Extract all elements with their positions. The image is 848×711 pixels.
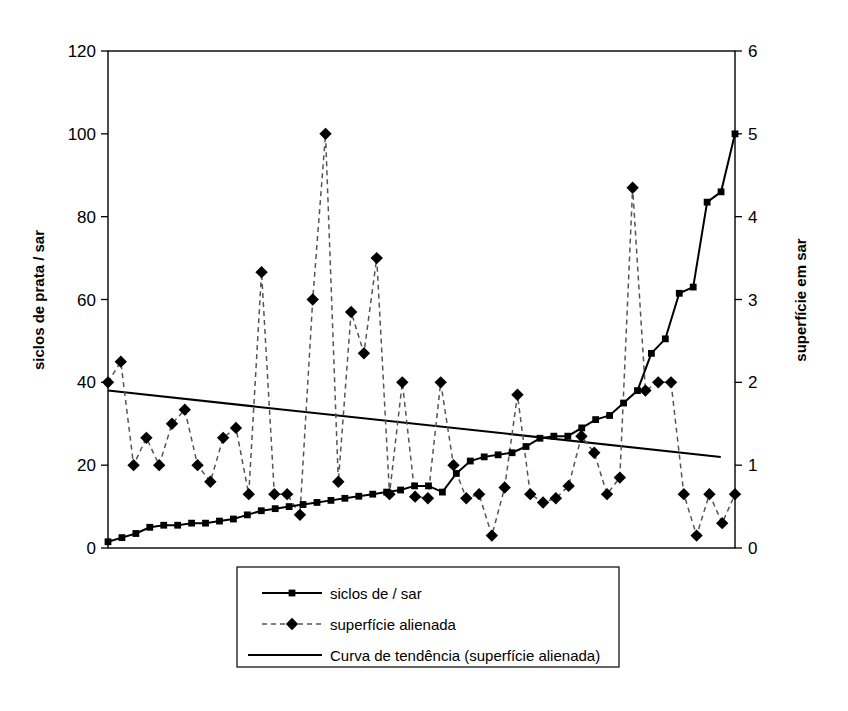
right-tick-label: 2 xyxy=(748,373,757,392)
right-tick-label: 3 xyxy=(748,291,757,310)
right-tick-label: 4 xyxy=(748,208,757,227)
left-tick-label: 120 xyxy=(68,42,96,61)
left-tick-label: 100 xyxy=(68,125,96,144)
chart-figure: 020406080100120 0123456 siclos de prata … xyxy=(0,0,848,711)
right-axis-ticks: 0123456 xyxy=(735,42,757,558)
legend-item-label: siclos de / sar xyxy=(330,585,422,602)
right-tick-label: 5 xyxy=(748,125,757,144)
left-tick-label: 80 xyxy=(77,208,96,227)
left-tick-label: 0 xyxy=(87,539,96,558)
legend-item-label: superfície alienada xyxy=(330,616,457,633)
legend-item-label: Curva de tendência (superfície alienada) xyxy=(330,647,600,664)
chart-canvas: 020406080100120 0123456 siclos de prata … xyxy=(0,0,848,711)
right-tick-label: 1 xyxy=(748,456,757,475)
right-axis-title: superfície em sar xyxy=(792,238,809,362)
left-axis-title: siclos de prata / sar xyxy=(30,230,47,370)
left-tick-label: 20 xyxy=(77,456,96,475)
left-tick-label: 40 xyxy=(77,373,96,392)
left-axis-ticks: 020406080100120 xyxy=(68,42,108,558)
right-tick-label: 6 xyxy=(748,42,757,61)
left-tick-label: 60 xyxy=(77,291,96,310)
plot-area-frame xyxy=(108,51,735,548)
right-tick-label: 0 xyxy=(748,539,757,558)
